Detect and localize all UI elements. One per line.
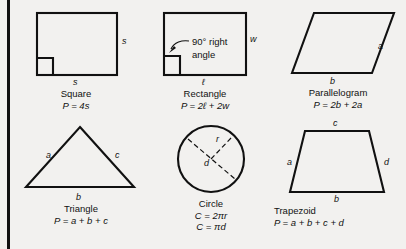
trapezoid-formula: P = a + b + c + d: [274, 217, 398, 229]
triangle-formula: P = a + b + c: [26, 215, 136, 227]
square-formula: P = 4s: [28, 100, 124, 112]
square-label-right: s: [122, 36, 127, 46]
triangle-label-bottom: b: [76, 192, 81, 202]
rectangle-angle-note-line2: angle: [192, 49, 215, 60]
circle-caption: Circle C = 2πr C = πd: [161, 198, 261, 233]
circle-name: Circle: [161, 198, 261, 210]
circle-label-diameter: d: [204, 158, 209, 168]
rectangle-label-bottom: ℓ: [202, 77, 205, 87]
parallelogram-label-right: a: [378, 41, 383, 51]
circle-formula: C = 2πr: [161, 210, 261, 222]
trapezoid-caption: Trapezoid P = a + b + c + d: [274, 205, 398, 228]
parallelogram-label-bottom: b: [330, 76, 335, 86]
circle-formula-diameter: C = πd: [161, 221, 261, 233]
triangle-caption: Triangle P = a + b + c: [26, 203, 136, 226]
parallelogram-formula: P = 2b + 2a: [282, 99, 394, 111]
rectangle-angle-note-line1: 90° right: [192, 36, 228, 47]
circle-label-radius: r: [216, 134, 219, 144]
parallelogram-name: Parallelogram: [282, 87, 394, 99]
rectangle-caption: Rectangle P = 2ℓ + 2w: [155, 88, 255, 111]
figure-trapezoid: [289, 130, 385, 194]
rectangle-name: Rectangle: [155, 88, 255, 100]
figure-circle: [176, 124, 246, 194]
trapezoid-label-top: c: [333, 118, 338, 128]
circle-drawing: [176, 124, 246, 194]
square-name: Square: [28, 88, 124, 100]
triangle-label-left: a: [46, 150, 51, 160]
figure-page: s s Square P = 4s 90° right angle w ℓ Re…: [0, 0, 406, 249]
page-spine-rule: [7, 0, 10, 249]
trapezoid-drawing: [289, 130, 385, 194]
square-caption: Square P = 4s: [28, 88, 124, 111]
rectangle-formula: P = 2ℓ + 2w: [155, 100, 255, 112]
rectangle-label-right: w: [250, 34, 257, 44]
trapezoid-name: Trapezoid: [274, 205, 398, 217]
square-label-bottom: s: [73, 77, 78, 87]
trapezoid-label-bottom: b: [334, 194, 339, 204]
figure-square: [36, 12, 118, 76]
square-drawing: [36, 12, 118, 76]
triangle-label-right: c: [115, 150, 120, 160]
triangle-name: Triangle: [26, 203, 136, 215]
trapezoid-label-right: d: [384, 157, 389, 167]
parallelogram-caption: Parallelogram P = 2b + 2a: [282, 87, 394, 110]
trapezoid-label-left: a: [287, 157, 292, 167]
